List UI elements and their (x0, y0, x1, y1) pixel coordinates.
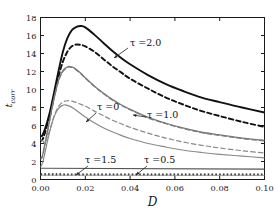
y-tick-label: 4 (31, 139, 36, 149)
y-tick-label: 14 (26, 49, 36, 59)
annotation-tau-0p5: τ =0.5 (144, 154, 175, 165)
y-axis-label-text: tcorr (3, 89, 17, 108)
y-tick-label: 18 (26, 13, 36, 23)
x-tick-label: 0.06 (166, 183, 184, 193)
series-line (41, 44, 265, 140)
y-tick-label: 12 (26, 67, 36, 77)
y-axis-label-subscript: corr (9, 89, 17, 104)
annotation-tau-1p5: τ =1.5 (85, 154, 116, 165)
y-tick-label: 16 (26, 31, 36, 41)
y-tick-label: 2 (31, 157, 36, 167)
series-group (41, 26, 265, 175)
x-axis-label: D (147, 195, 158, 209)
series-line (41, 168, 265, 169)
x-tick-label: 0.10 (255, 183, 273, 193)
annotation-tau-1p0: τ =1.0 (147, 109, 178, 120)
y-tick-label: 0 (31, 175, 36, 185)
annotation-tau-0: τ =0 (97, 101, 119, 112)
x-tick-label: 0.04 (121, 183, 139, 193)
figure-canvas: 0.000.020.040.060.080.10024681012141618D… (0, 0, 280, 216)
x-tick-label: 0.08 (211, 183, 229, 193)
annotation-tau-2p0: τ =2.0 (130, 37, 161, 48)
y-axis-label: tcorr (3, 89, 17, 108)
y-tick-label: 6 (31, 121, 36, 131)
x-tick-label: 0.02 (76, 183, 94, 193)
tau-1p0-arrow-head (133, 114, 137, 117)
chart-plot: 0.000.020.040.060.080.10024681012141618D… (0, 0, 280, 216)
y-tick-label: 10 (26, 85, 36, 95)
y-tick-label: 8 (31, 103, 36, 113)
